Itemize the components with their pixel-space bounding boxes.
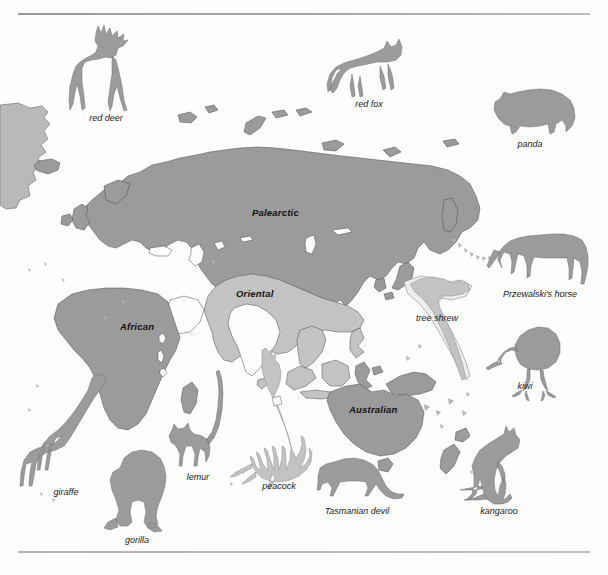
landmass-wrangel [443, 139, 459, 147]
landmass-korea [374, 278, 386, 292]
red-fox-label: red fox [355, 99, 383, 109]
gorilla-label: gorilla [125, 535, 149, 545]
landmass-arctic-islet-b [272, 110, 288, 118]
realm-label-african: African [119, 321, 154, 332]
red-deer-silhouette [69, 25, 128, 111]
landmass-new-zealand-north [455, 428, 470, 442]
sea-black [149, 246, 172, 256]
world-map-svg: Palearctic Oriental African Australian r… [0, 0, 608, 575]
animal-red-fox: red fox [327, 39, 402, 109]
realm-label-palearctic: Palearctic [252, 207, 299, 218]
kiwi-label: kiwi [518, 381, 534, 391]
biogeography-figure: Palearctic Oriental African Australian r… [0, 0, 608, 575]
landmass-sumatra [286, 366, 316, 390]
landmass-indochina [297, 326, 326, 368]
animal-red-deer: red deer [69, 25, 128, 123]
landmass-svalbard [178, 112, 197, 123]
animal-giraffe: giraffe [20, 374, 106, 497]
animal-kiwi: kiwi [486, 327, 560, 401]
landmass-severnaya-zemlya [322, 140, 344, 151]
peacock-label: peacock [261, 481, 296, 491]
gorilla-silhouette [104, 450, 166, 532]
landmass-new-guinea [386, 372, 436, 396]
lemur-label: lemur [187, 472, 211, 482]
landmass-madagascar [181, 382, 198, 414]
panda-silhouette [494, 89, 575, 134]
landmass-philippines [350, 328, 364, 358]
landmass-greenland [0, 103, 50, 209]
landmass-arctic-islet-c [296, 108, 312, 116]
lemur-silhouette [169, 370, 223, 466]
animal-kangaroo: kangaroo [460, 426, 520, 516]
landmass-moluccas [372, 366, 383, 375]
red-deer-label: red deer [89, 113, 124, 123]
landmass-novaya-zemlya [244, 116, 266, 135]
przewalskis-horse-silhouette [487, 234, 588, 284]
landmass-new-siberian-islands [383, 147, 401, 157]
animal-panda: panda [494, 89, 575, 149]
panda-label: panda [516, 139, 542, 149]
tree-shrew-label: tree shrew [416, 313, 459, 323]
przewalskis-horse-label: Przewalski's horse [503, 289, 577, 299]
realm-label-australian: Australian [348, 404, 397, 415]
map-landmasses [0, 103, 498, 502]
animal-przewalskis-horse: Przewalski's horse [487, 234, 588, 299]
landmass-iceland [34, 159, 60, 174]
landmass-new-zealand-south [440, 444, 460, 474]
landmass-japan-south [384, 292, 394, 300]
landmass-ireland [61, 214, 73, 226]
kangaroo-silhouette [460, 426, 520, 504]
landmass-borneo [322, 360, 350, 386]
red-fox-silhouette [327, 39, 402, 97]
realm-label-oriental: Oriental [236, 288, 274, 299]
kangaroo-label: kangaroo [480, 506, 518, 516]
landmass-tasmania [378, 458, 393, 472]
giraffe-label: giraffe [53, 487, 78, 497]
peacock-eye-detail [272, 396, 282, 406]
animal-gorilla: gorilla [104, 450, 166, 545]
giraffe-silhouette [20, 374, 106, 486]
animal-lemur: lemur [169, 370, 223, 482]
landmass-arctic-islet-a [205, 105, 218, 113]
tasmanian-devil-label: Tasmanian devil [325, 506, 391, 516]
